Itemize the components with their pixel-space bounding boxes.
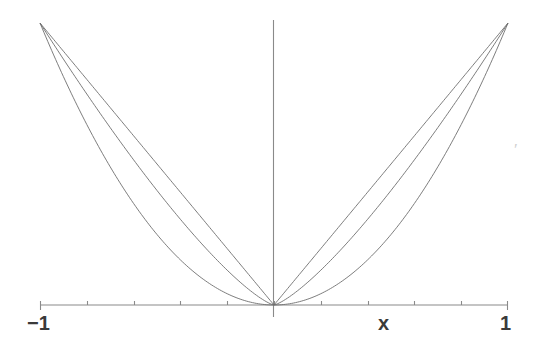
function-plot: −1 x 1: [0, 0, 549, 348]
x-axis-min-label: −1: [27, 312, 50, 334]
plot-figure: −1 x 1 ′: [0, 0, 549, 348]
axes-group: [40, 20, 508, 317]
x-axis-max-label: 1: [500, 312, 511, 334]
x-axis-name-label: x: [378, 312, 389, 334]
scan-artifact-mark: ′: [514, 140, 518, 160]
